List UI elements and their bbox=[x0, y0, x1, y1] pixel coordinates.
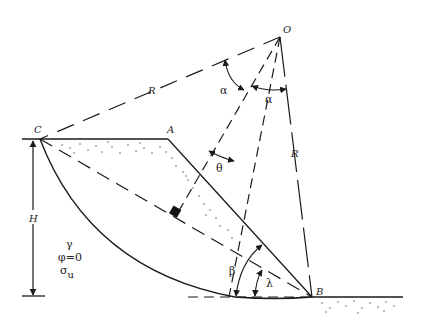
point-o-label: O bbox=[283, 24, 291, 35]
slope-face-line bbox=[168, 139, 312, 297]
bisector-perpendicular-dashed bbox=[177, 37, 280, 214]
soil-stipple bbox=[61, 141, 394, 313]
point-b-label: B bbox=[315, 286, 323, 297]
radius-oc-dashed bbox=[40, 37, 280, 139]
radius-right-label: R bbox=[290, 148, 299, 159]
radius-ob bbox=[280, 37, 312, 297]
cohesion-label: σu bbox=[60, 264, 75, 280]
vertical-from-o-dashed bbox=[229, 37, 280, 297]
height-label: H bbox=[28, 213, 38, 224]
friction-angle-label: φ=0 bbox=[58, 251, 82, 264]
beta-arc bbox=[236, 245, 262, 296]
alpha-right-label: α bbox=[265, 93, 273, 106]
point-a-label: A bbox=[166, 124, 174, 135]
lambda-arc bbox=[255, 270, 262, 296]
unit-weight-label: γ bbox=[66, 238, 73, 251]
chord-cb-dashed bbox=[40, 139, 312, 297]
theta-arc bbox=[209, 151, 234, 161]
slope-stability-diagram: O C A B R R H α α θ β λ γ φ=0 σu bbox=[0, 0, 423, 330]
beta-label: β bbox=[229, 265, 235, 278]
alpha-right-arc bbox=[252, 86, 286, 90]
lambda-label: λ bbox=[266, 277, 273, 290]
radius-left-label: R bbox=[147, 85, 156, 96]
alpha-left-arc bbox=[225, 60, 244, 90]
point-c-label: C bbox=[34, 124, 42, 135]
alpha-left-label: α bbox=[220, 84, 228, 97]
right-angle-marker bbox=[169, 206, 181, 218]
theta-label: θ bbox=[216, 162, 223, 175]
